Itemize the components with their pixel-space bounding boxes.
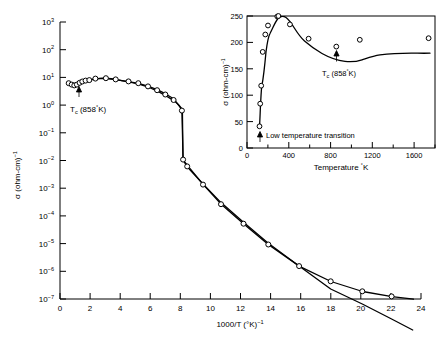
x-tick-label: 22: [386, 304, 395, 313]
x-tick-label: 4: [118, 304, 123, 313]
y-tick-exponent: −2: [48, 155, 54, 161]
y-tick-exponent: 3: [51, 17, 54, 23]
x-tick-label: 6: [148, 304, 153, 313]
y-tick-exponent: −7: [48, 294, 54, 300]
x-tick-label: 24: [417, 304, 426, 313]
y-tick-exponent: 0: [51, 100, 54, 106]
main-x-ticks: [60, 293, 421, 299]
main-x-axis-label: 1000/T (°K)−1: [216, 319, 263, 330]
inset-y-tick-label: 200: [230, 38, 243, 47]
figure-container: 103 102 101 100 10−1 10−2 10−3 10−4 10−5…: [0, 0, 446, 340]
x-tick-label: 12: [236, 304, 245, 313]
inset-y-tick-label: 250: [230, 12, 243, 21]
y-tick-exponent: −1: [48, 127, 54, 133]
svg-text:10−5: 10−5: [39, 238, 54, 249]
svg-text:10−4: 10−4: [39, 210, 54, 221]
svg-text:100: 100: [42, 100, 54, 111]
x-tick-label: 18: [326, 304, 335, 313]
svg-text:10−2: 10−2: [39, 155, 54, 166]
inset-x-axis-label: Temperature °K: [314, 162, 369, 172]
inset-y-ticklabels: 250 200 150 100 50 0: [230, 12, 243, 153]
x-tick-label: 0: [58, 304, 63, 313]
svg-text:103: 103: [42, 17, 54, 28]
y-tick-exponent: 1: [51, 72, 54, 78]
main-y-ticks: [60, 22, 66, 299]
inset-x-ticklabels: 0 400 800 1200 1600: [245, 151, 423, 160]
inset-low-temp-label: Low temperature transition: [266, 131, 355, 140]
inset-y-tick-label: 50: [235, 118, 243, 127]
x-tick-label: 2: [88, 304, 93, 313]
svg-text:10−6: 10−6: [39, 266, 54, 277]
main-y-axis-label: σ (ohm-cm)−1: [12, 151, 23, 199]
svg-text:10−7: 10−7: [39, 294, 54, 305]
inset-y-axis-label: σ (ohm-cm)−1: [220, 58, 230, 105]
y-tick-exponent: −3: [48, 183, 54, 189]
inset-y-tick-label: 0: [239, 144, 243, 153]
main-tc-annotation: Tc (858°K): [70, 87, 107, 116]
inset-plot: 250 200 150 100 50 0 0: [220, 12, 435, 172]
inset-x-tick-label: 1600: [406, 151, 423, 160]
inset-x-tick-label: 1200: [364, 151, 381, 160]
inset-y-tick-label: 150: [230, 65, 243, 74]
svg-text:10−1: 10−1: [39, 127, 54, 138]
svg-text:101: 101: [42, 72, 54, 83]
y-tick-exponent: −5: [48, 238, 54, 244]
inset-x-tick-label: 0: [245, 151, 249, 160]
inset-x-tick-label: 400: [283, 151, 296, 160]
svg-text:102: 102: [42, 44, 54, 55]
inset-frame: [247, 16, 435, 148]
main-tc-label: Tc (858°K): [70, 104, 107, 115]
x-tick-label: 8: [178, 304, 183, 313]
chart-svg: 103 102 101 100 10−1 10−2 10−3 10−4 10−5…: [0, 0, 446, 340]
x-tick-label: 10: [206, 304, 215, 313]
x-tick-label: 16: [296, 304, 305, 313]
x-tick-label: 14: [266, 304, 275, 313]
y-tick-exponent: −4: [48, 210, 54, 216]
main-y-ticklabels: 103 102 101 100 10−1 10−2 10−3 10−4 10−5…: [39, 17, 54, 305]
inset-x-tick-label: 800: [324, 151, 337, 160]
svg-text:10−3: 10−3: [39, 183, 54, 194]
y-tick-exponent: −6: [48, 266, 54, 272]
inset-y-tick-label: 100: [230, 91, 243, 100]
y-tick-exponent: 2: [51, 44, 54, 50]
